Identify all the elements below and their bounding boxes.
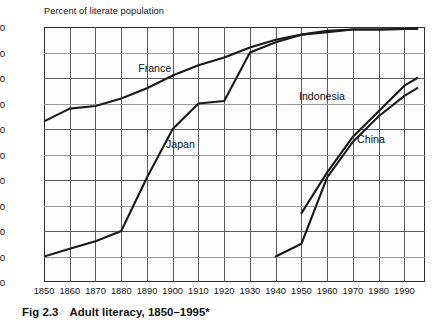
x-tick-1990: 1990 [394, 286, 415, 296]
x-tick-1880: 1880 [111, 286, 132, 296]
x-tick-1920: 1920 [214, 286, 235, 296]
x-tick-1870: 1870 [85, 286, 106, 296]
figure-caption: Fig 2.3Adult literacy, 1850–1995* [22, 306, 210, 318]
x-tick-1860: 1860 [59, 286, 80, 296]
x-tick-1900: 1900 [162, 286, 183, 296]
series-label-france: France [138, 62, 171, 74]
x-tick-1850: 1850 [34, 286, 55, 296]
x-tick-1950: 1950 [291, 286, 312, 296]
x-tick-1930: 1930 [240, 286, 261, 296]
series-label-japan: Japan [166, 138, 195, 150]
figure-container: Percent of literate population 010203040… [0, 0, 440, 332]
x-tick-1910: 1910 [188, 286, 209, 296]
series-label-indonesia: Indonesia [299, 90, 345, 102]
x-axis-tick-labels: 1850186018701880189019001910192019301940… [0, 0, 440, 332]
series-label-china: China [357, 133, 385, 145]
x-tick-1980: 1980 [368, 286, 389, 296]
figure-number: Fig 2.3 [22, 306, 58, 318]
figure-caption-text: Adult literacy, 1850–1995* [69, 306, 209, 318]
x-tick-1970: 1970 [343, 286, 364, 296]
x-tick-1940: 1940 [265, 286, 286, 296]
x-tick-1890: 1890 [137, 286, 158, 296]
x-tick-1960: 1960 [317, 286, 338, 296]
